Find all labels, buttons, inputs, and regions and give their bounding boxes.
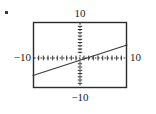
screenshot-root: 10 −10 −10 10 <box>0 0 156 114</box>
x-min-label: −10 <box>2 52 31 63</box>
y-min-label: −10 <box>33 92 127 103</box>
x-max-label: 10 <box>130 52 154 63</box>
y-max-label: 10 <box>33 8 127 19</box>
